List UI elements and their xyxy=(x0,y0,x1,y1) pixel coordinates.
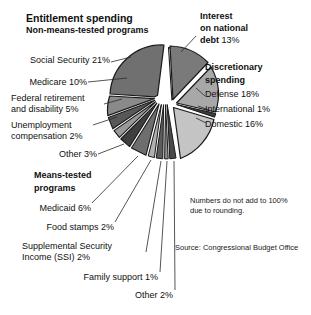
leader-other-non-means-tested xyxy=(98,144,124,154)
interest-line3: debt 13% xyxy=(200,35,240,46)
label-medicaid: Medicaid 6% xyxy=(0,203,91,214)
pie-chart-figure: Entitlement spending Non-means-tested pr… xyxy=(0,0,311,315)
entitlement-spending-subtitle: Non-means-tested programs xyxy=(26,25,149,36)
leader-ssi xyxy=(146,161,161,252)
interest-line3-label: debt xyxy=(200,35,219,45)
rounding-note-line1: Numbers do not add to 100% xyxy=(190,196,288,206)
discretionary-title-line1: Discretionary xyxy=(205,62,263,73)
interest-line3-value: 13% xyxy=(219,35,240,45)
discretionary-title-line2: spending xyxy=(205,75,245,86)
label-medicare: Medicare 10% xyxy=(0,77,87,88)
label-food-stamps: Food stamps 2% xyxy=(0,222,114,233)
label-social-security: Social Security 21% xyxy=(0,55,110,66)
label-defense: Defense 18% xyxy=(205,89,259,100)
leader-other-means-tested xyxy=(174,161,175,290)
interest-line2: on national xyxy=(200,23,248,34)
entitlement-spending-title: Entitlement spending xyxy=(26,12,133,24)
interest-line1: Interest xyxy=(200,11,233,22)
label-family-support: Family support 1% xyxy=(0,272,158,283)
pie-slices xyxy=(108,45,219,159)
label-domestic: Domestic 16% xyxy=(205,119,263,130)
source-note: Source: Congressional Budget Office xyxy=(175,243,298,253)
label-other-non-means-tested: Other 3% xyxy=(0,149,97,160)
label-federal-retirement-and-disability: Federal retirement and disability 5% xyxy=(11,93,106,114)
leader-medicaid xyxy=(92,156,138,203)
means-tested-title-line1: Means-tested xyxy=(34,170,92,181)
means-tested-title-line2: programs xyxy=(34,183,76,194)
leader-food-stamps xyxy=(115,160,151,222)
label-international: International 1% xyxy=(205,104,270,115)
leader-family-support xyxy=(160,161,167,272)
slice-social-security xyxy=(110,45,164,97)
rounding-note-line2: due to rounding. xyxy=(190,206,244,216)
label-other-means-tested: Other 2% xyxy=(0,290,173,301)
label-supplemental-security-income: Supplemental Security Income (SSI) 2% xyxy=(22,241,146,262)
label-unemployment-compensation: Unemployment compensation 2% xyxy=(11,120,103,141)
